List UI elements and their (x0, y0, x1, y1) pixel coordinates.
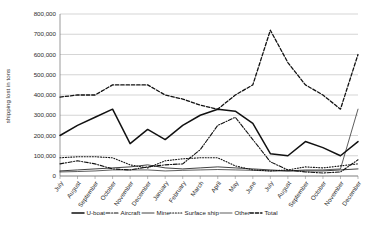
x-tick-label: July (52, 179, 65, 193)
chart-legend: U-boatAircraftMineSurface shipOtherTotal (72, 209, 278, 216)
legend-label-aircraft: Aircraft (121, 209, 141, 216)
y-tick-label: 500,000 (34, 71, 57, 78)
series-lines (60, 30, 358, 173)
x-tick-label: March (189, 179, 205, 198)
series-line-u-boat (60, 109, 358, 156)
series-line-other (60, 109, 358, 172)
gridlines (60, 14, 358, 176)
legend-label-surface-ship: Surface ship (185, 209, 220, 216)
x-tick-label: August (275, 179, 292, 199)
x-tick-label: August (65, 179, 82, 199)
series-line-aircraft (60, 117, 358, 173)
y-tick-label: 0 (53, 172, 57, 179)
x-tick-label: May (227, 179, 240, 193)
x-tick-label: April (209, 180, 222, 194)
series-line-total (60, 30, 358, 109)
y-tick-label: 100,000 (34, 152, 57, 159)
y-tick-label: 700,000 (34, 30, 57, 37)
x-tick-label: October (99, 180, 117, 202)
x-tick-label: June (244, 179, 258, 194)
y-axis-tick-labels: 800,000700,000600,000500,000400,000300,0… (34, 10, 57, 179)
x-axis-tick-marks (60, 176, 358, 179)
legend-label-u-boat: U-boat (87, 209, 106, 216)
legend-label-other: Other (235, 209, 250, 216)
x-tick-label: October (309, 180, 327, 202)
line-chart: 800,000700,000600,000500,000400,000300,0… (0, 0, 380, 232)
legend-label-total: Total (265, 209, 278, 216)
y-tick-label: 800,000 (34, 10, 57, 17)
x-tick-label: February (167, 179, 187, 204)
y-tick-label: 200,000 (34, 132, 57, 139)
y-tick-label: 400,000 (34, 91, 57, 98)
y-tick-label: 300,000 (34, 111, 57, 118)
legend-label-mine: Mine (157, 209, 171, 216)
series-line-surface-ship (60, 157, 358, 171)
chart-canvas: 800,000700,000600,000500,000400,000300,0… (0, 0, 380, 232)
y-axis-title: shipping lost in tons (4, 69, 11, 123)
y-tick-label: 600,000 (34, 51, 57, 58)
x-axis-tick-labels: JulyAugustSeptemberOctoberNovemberDecemb… (52, 179, 362, 209)
x-tick-label: July (263, 179, 276, 193)
